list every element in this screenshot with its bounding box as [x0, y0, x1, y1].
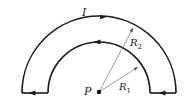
outer-arc-wire — [22, 16, 176, 93]
point-p-label: P — [83, 85, 92, 98]
current-loop-diagram: I P R2 R1 — [0, 0, 187, 104]
r1-label: R1 — [118, 81, 131, 95]
point-p-dot — [97, 90, 102, 95]
inner-arc-wire — [48, 42, 150, 93]
radius-r2-line — [99, 28, 133, 92]
r1-label-sub: 1 — [127, 87, 131, 95]
r2-label: R2 — [129, 37, 142, 51]
current-label: I — [81, 6, 87, 19]
r2-label-sub: 2 — [138, 43, 142, 51]
